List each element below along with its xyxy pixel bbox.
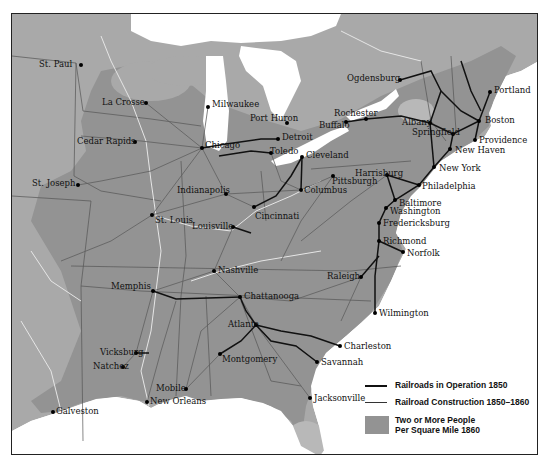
city-dot-icon [51, 410, 55, 414]
city-label: Cedar Rapids [77, 137, 135, 146]
city-dot-icon [384, 206, 388, 210]
city-label: Chattanooga [244, 292, 299, 301]
city-label: St. Louis [155, 216, 193, 225]
city-dot-icon [477, 119, 481, 123]
city-dot-icon [79, 63, 83, 67]
thin-line-icon [365, 402, 387, 403]
city-dot-icon [308, 396, 312, 400]
city-label: St. Paul [39, 60, 72, 69]
city-label: Jacksonville [314, 394, 365, 403]
city-dot-icon [448, 147, 452, 151]
city-label: Buffalo [319, 121, 350, 130]
city-label: Louisville [192, 222, 233, 231]
city-dot-icon [299, 188, 303, 192]
city-label: Washington [390, 207, 441, 216]
city-label: Cleveland [306, 151, 349, 160]
city-dot-icon [200, 146, 204, 150]
city-label: Richmond [383, 237, 426, 246]
gray-swatch-icon [365, 416, 389, 434]
city-label: Port Huron [250, 114, 298, 123]
city-dot-icon [276, 137, 280, 141]
city-label: Portland [494, 86, 531, 95]
city-dot-icon [252, 205, 256, 209]
city-label: Galveston [56, 407, 99, 416]
city-dot-icon [238, 295, 242, 299]
city-label: Chicago [205, 141, 240, 150]
city-dot-icon [488, 90, 492, 94]
city-label: Providence [479, 136, 527, 145]
city-dot-icon [212, 269, 216, 273]
city-label: New Orleans [150, 397, 206, 406]
thick-line-icon [365, 385, 387, 387]
city-label: Natchez [93, 362, 129, 371]
city-dot-icon [377, 239, 381, 243]
city-label: Cincinnati [255, 212, 299, 221]
city-dot-icon [150, 213, 154, 217]
city-label: Rochester [334, 109, 378, 118]
city-label: Toledo [270, 147, 298, 156]
city-dot-icon [151, 289, 155, 293]
city-dot-icon [473, 138, 477, 142]
city-label: Nashville [218, 266, 258, 275]
city-label: Memphis [111, 282, 151, 291]
city-label: Philadelphia [422, 182, 476, 191]
city-dot-icon [417, 183, 421, 187]
city-label: Indianapolis [177, 186, 230, 195]
city-dot-icon [145, 400, 149, 404]
city-dot-icon [338, 344, 342, 348]
city-label: Detroit [282, 133, 313, 142]
city-label: Atlanta [228, 320, 259, 329]
city-label: Ogdensburg [347, 74, 400, 83]
city-label: Wilmington [379, 309, 429, 318]
city-dot-icon [76, 183, 80, 187]
city-dot-icon [432, 165, 436, 169]
city-label: Norfolk [407, 249, 440, 258]
city-label: Springfield [412, 128, 460, 137]
city-label: Charleston [344, 342, 391, 351]
city-label: Columbus [304, 186, 347, 195]
city-label: St. Joseph [32, 179, 75, 188]
city-label: Milwaukee [212, 100, 259, 109]
city-label: New Haven [455, 146, 505, 155]
legend-label-line1: Two or More People [395, 415, 475, 425]
city-dot-icon [377, 221, 381, 225]
city-label: Boston [485, 116, 515, 125]
city-dot-icon [373, 311, 377, 315]
city-dot-icon [300, 155, 304, 159]
city-label: La Crosse [102, 98, 145, 107]
city-dot-icon [206, 105, 210, 109]
city-label: Vicksburg [100, 348, 143, 357]
city-label: Fredericksburg [383, 219, 450, 228]
city-label: Raleigh [327, 272, 360, 281]
legend-label-line2: Per Square Mile 1860 [395, 425, 480, 435]
legend-label: Railroads in Operation 1850 [395, 380, 507, 390]
city-label: Albany [402, 118, 432, 127]
city-label: Montgomery [222, 355, 277, 364]
city-label: Savannah [321, 358, 363, 367]
city-dot-icon [393, 198, 397, 202]
city-dot-icon [315, 360, 319, 364]
city-label: Mobile [156, 384, 186, 393]
city-label: New York [439, 164, 481, 173]
city-dot-icon [401, 250, 405, 254]
legend-label: Railroad Construction 1850–1860 [395, 397, 529, 407]
